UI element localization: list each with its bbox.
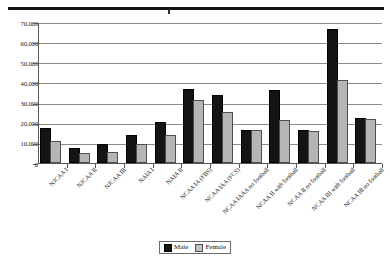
bar-group	[297, 23, 326, 163]
chart-legend: Male Female	[159, 241, 231, 254]
x-axis-label: NAIA I	[137, 166, 155, 184]
legend-item-female: Female	[195, 243, 226, 252]
bar-female	[365, 119, 376, 163]
plot-inner	[39, 23, 382, 163]
bar-female	[337, 80, 348, 163]
legend-item-male: Male	[164, 243, 188, 252]
bar-group	[268, 23, 297, 163]
bar-group	[96, 23, 125, 163]
x-axis-label: NJCAA I	[48, 166, 69, 187]
bar-female	[165, 135, 176, 163]
bar-female	[222, 112, 233, 163]
bar-female	[50, 141, 61, 163]
x-axis-label: NJCAA II	[75, 166, 98, 189]
bar-group	[211, 23, 240, 163]
bar-group	[68, 23, 97, 163]
legend-label-male: Male	[174, 243, 188, 252]
bar-group	[240, 23, 269, 163]
bar-chart: 010,00020,00030,00040,00050,00060,00070,…	[0, 14, 390, 261]
y-axis: 010,00020,00030,00040,00050,00060,00070,…	[0, 23, 38, 164]
bar-group	[125, 23, 154, 163]
plot-area	[38, 23, 382, 164]
bar-female	[193, 100, 204, 163]
bar-group	[354, 23, 383, 163]
bar-group	[326, 23, 355, 163]
x-axis-label: NJCAA III	[102, 166, 126, 190]
bar-female	[279, 120, 290, 163]
bar-female	[107, 152, 118, 163]
bar-female	[136, 144, 147, 163]
x-axis-labels: NJCAA INJCAA IINJCAA IIINAIA INAIA IINCA…	[0, 166, 390, 236]
legend-swatch-male	[164, 244, 172, 252]
bar-female	[251, 130, 262, 163]
bar-female	[308, 131, 319, 163]
bar-female	[79, 153, 90, 163]
bar-group	[154, 23, 183, 163]
legend-swatch-female	[195, 244, 203, 252]
x-axis-label: NAIA II	[164, 166, 184, 186]
legend-label-female: Female	[205, 243, 226, 252]
page-top-rule	[8, 7, 384, 10]
bar-group	[182, 23, 211, 163]
bar-group	[39, 23, 68, 163]
